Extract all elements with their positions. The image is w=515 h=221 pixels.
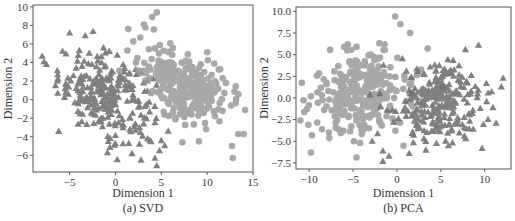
- data-point-circle: [318, 85, 325, 92]
- data-point-circle: [392, 127, 399, 134]
- y-tick-label: 10: [17, 1, 29, 13]
- data-point-circle: [375, 112, 382, 119]
- data-point-circle: [202, 120, 209, 127]
- data-point-circle: [173, 98, 180, 105]
- y-tick-label: −6: [16, 149, 28, 161]
- y-tick-label: 4: [23, 56, 29, 68]
- data-point-circle: [241, 131, 248, 138]
- data-point-circle: [166, 113, 173, 120]
- data-point-circle: [383, 113, 390, 120]
- data-point-circle: [183, 58, 190, 65]
- data-point-circle: [315, 99, 322, 106]
- series-class-triangle: [366, 42, 506, 164]
- data-point-circle: [381, 41, 388, 48]
- data-point-circle: [308, 149, 315, 156]
- y-tick-label: 0.0: [277, 92, 291, 104]
- y-axis: −6−4−20246810: [16, 1, 33, 161]
- data-point-circle: [211, 108, 218, 115]
- data-point-circle: [171, 105, 178, 112]
- pca-chart-panel: −10−50510−7.5−5.0−2.50.02.55.07.510.0Dim…: [258, 0, 515, 221]
- data-point-circle: [187, 93, 194, 100]
- data-point-triangle: [100, 44, 107, 50]
- data-point-circle: [340, 83, 347, 90]
- data-point-circle: [197, 102, 204, 109]
- y-axis-label: Dimension 2: [258, 57, 271, 119]
- data-point-circle: [387, 64, 394, 71]
- data-point-circle: [149, 14, 156, 21]
- data-point-triangle: [410, 139, 417, 145]
- data-point-triangle: [466, 118, 473, 124]
- data-point-triangle: [449, 139, 456, 145]
- data-point-circle: [391, 95, 398, 102]
- data-point-circle: [157, 42, 164, 49]
- data-point-circle: [377, 54, 384, 61]
- data-point-circle: [375, 74, 382, 81]
- data-point-circle: [167, 86, 174, 93]
- data-point-circle: [170, 66, 177, 73]
- data-point-circle: [305, 122, 312, 129]
- data-point-circle: [172, 115, 179, 122]
- data-point-circle: [148, 56, 155, 63]
- data-point-circle: [213, 80, 220, 87]
- data-point-triangle: [129, 91, 136, 97]
- data-point-circle: [205, 75, 212, 82]
- data-point-circle: [309, 132, 316, 139]
- data-point-circle: [358, 107, 365, 114]
- data-point-circle: [130, 38, 137, 45]
- data-point-triangle: [153, 115, 160, 121]
- data-point-circle: [167, 40, 174, 47]
- data-point-circle: [230, 155, 237, 162]
- data-point-triangle: [433, 140, 440, 146]
- data-point-circle: [345, 112, 352, 119]
- data-point-triangle: [146, 108, 153, 114]
- data-point-circle: [357, 140, 364, 147]
- data-point-circle: [179, 139, 186, 146]
- data-point-triangle: [469, 107, 476, 113]
- data-point-circle: [353, 44, 360, 51]
- data-point-triangle: [446, 81, 453, 87]
- data-point-circle: [352, 112, 359, 119]
- data-point-triangle: [78, 118, 85, 124]
- x-tick-label: 5: [438, 173, 444, 185]
- data-point-circle: [151, 26, 158, 33]
- x-tick-label: 10: [202, 176, 214, 188]
- y-tick-label: 6: [23, 38, 29, 50]
- data-point-circle: [326, 96, 333, 103]
- x-tick-label: −10: [301, 173, 319, 185]
- y-axis: −7.5−5.0−2.50.02.55.07.510.0: [271, 5, 296, 169]
- x-tick-label: 10: [479, 173, 491, 185]
- data-point-triangle: [402, 104, 409, 110]
- data-point-triangle: [475, 42, 482, 48]
- data-point-circle: [400, 86, 407, 93]
- svd-scatter-plot: −5051015−6−4−20246810Dimension 1(a) SVDD…: [0, 0, 258, 221]
- data-point-circle: [368, 112, 375, 119]
- data-point-circle: [185, 51, 192, 58]
- data-point-circle: [357, 89, 364, 96]
- data-point-circle: [182, 122, 189, 129]
- data-point-triangle: [468, 72, 475, 78]
- data-point-circle: [424, 45, 431, 52]
- data-point-triangle: [484, 116, 491, 122]
- data-point-circle: [182, 107, 189, 114]
- data-point-circle: [366, 101, 373, 108]
- data-point-circle: [232, 100, 239, 107]
- data-point-circle: [326, 129, 333, 136]
- data-point-circle: [219, 108, 226, 115]
- data-point-circle: [181, 90, 188, 97]
- y-tick-label: −7.5: [271, 157, 291, 169]
- data-point-triangle: [76, 47, 83, 53]
- data-point-circle: [344, 91, 351, 98]
- data-point-triangle: [125, 140, 132, 146]
- data-point-triangle: [478, 145, 485, 151]
- data-point-triangle: [151, 103, 158, 109]
- data-point-triangle: [477, 105, 484, 111]
- data-point-circle: [361, 122, 368, 129]
- y-tick-label: 8: [23, 19, 29, 31]
- data-point-circle: [232, 83, 239, 90]
- data-point-circle: [341, 44, 348, 51]
- data-point-circle: [319, 126, 326, 133]
- data-point-circle: [326, 135, 333, 142]
- data-point-circle: [308, 93, 315, 100]
- data-point-triangle: [70, 72, 77, 78]
- data-point-circle: [216, 118, 223, 125]
